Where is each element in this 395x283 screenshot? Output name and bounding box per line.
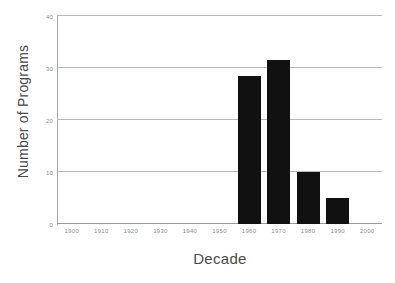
y-tick-label: 0 bbox=[33, 222, 53, 228]
x-tick-label: 2000 bbox=[347, 228, 387, 234]
gridline-40 bbox=[57, 15, 382, 16]
y-tick-label: 30 bbox=[33, 66, 53, 72]
bar-1980 bbox=[297, 172, 320, 224]
y-tick-label: 20 bbox=[33, 118, 53, 124]
x-axis-title: Decade bbox=[57, 250, 383, 267]
bar-1960 bbox=[238, 76, 261, 224]
bar-1970 bbox=[267, 60, 290, 224]
bar-chart-figure: Number of Programs 010203040 19001910192… bbox=[0, 0, 395, 283]
gridline-30 bbox=[57, 67, 382, 68]
y-tick-label: 10 bbox=[33, 170, 53, 176]
plot-area bbox=[57, 16, 382, 224]
gridline-20 bbox=[57, 119, 382, 120]
gridline-10 bbox=[57, 171, 382, 172]
y-tick-label: 40 bbox=[33, 14, 53, 20]
bar-1990 bbox=[326, 198, 349, 224]
x-axis-tick-labels: 1900191019201930194019501960197019801990… bbox=[57, 228, 382, 240]
y-axis-tick-labels: 010203040 bbox=[31, 16, 53, 224]
